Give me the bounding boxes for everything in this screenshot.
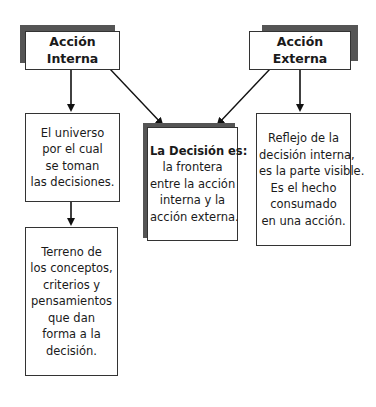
universo-line: El universo bbox=[28, 125, 117, 142]
accion-interna-label: Acción Interna bbox=[26, 34, 119, 67]
universo-line: por el cual bbox=[28, 141, 117, 158]
universo-box: El universo por el cual se toman las dec… bbox=[25, 113, 120, 202]
decision-line: interna y la bbox=[150, 192, 235, 209]
reflejo-line: decisión interna, bbox=[259, 147, 348, 164]
terreno-line: pensamientos bbox=[28, 293, 115, 310]
reflejo-line: en una acción. bbox=[259, 213, 348, 230]
accion-interna-box: Acción Interna bbox=[25, 31, 120, 70]
terreno-line: que dan bbox=[28, 310, 115, 327]
decision-title: La Decisión es: bbox=[150, 143, 235, 160]
universo-line: se toman bbox=[28, 158, 117, 175]
reflejo-line: es la parte visible. bbox=[259, 163, 348, 180]
decision-line: la frontera bbox=[150, 159, 235, 176]
terreno-box: Terreno de los conceptos, criterios y pe… bbox=[25, 227, 118, 376]
decision-box: La Decisión es: la frontera entre la acc… bbox=[147, 127, 238, 241]
terreno-line: decisión. bbox=[28, 343, 115, 360]
decision-line: acción externa. bbox=[150, 209, 235, 226]
accion-externa-label: Acción Externa bbox=[250, 34, 350, 67]
reflejo-box: Reflejo de la decisión interna, es la pa… bbox=[256, 113, 351, 246]
accion-externa-box: Acción Externa bbox=[249, 31, 351, 70]
reflejo-line: consumado bbox=[259, 196, 348, 213]
terreno-line: criterios y bbox=[28, 277, 115, 294]
terreno-line: forma a la bbox=[28, 326, 115, 343]
terreno-line: Terreno de bbox=[28, 244, 115, 261]
decision-line: entre la acción bbox=[150, 176, 235, 193]
reflejo-line: Reflejo de la bbox=[259, 130, 348, 147]
reflejo-line: Es el hecho bbox=[259, 180, 348, 197]
universo-line: las decisiones. bbox=[28, 174, 117, 191]
terreno-line: los conceptos, bbox=[28, 260, 115, 277]
